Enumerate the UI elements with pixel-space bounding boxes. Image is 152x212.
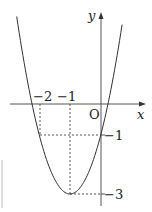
- tick-label-y-neg3: −3: [104, 187, 123, 202]
- x-axis: [10, 102, 146, 107]
- y-axis-arrow-icon: [99, 12, 104, 19]
- parabola-graph: y x O −2 −1 −1 −3: [0, 0, 152, 212]
- x-axis-label: x: [137, 107, 145, 122]
- tick-label-y-neg1: −1: [104, 128, 123, 143]
- origin-label: O: [89, 107, 100, 122]
- x-axis-arrow-icon: [139, 102, 146, 107]
- y-axis-label: y: [87, 8, 96, 23]
- tick-label-x-neg1: −1: [57, 89, 76, 104]
- parabola-curve: [17, 17, 122, 195]
- tick-label-x-neg2: −2: [33, 89, 52, 104]
